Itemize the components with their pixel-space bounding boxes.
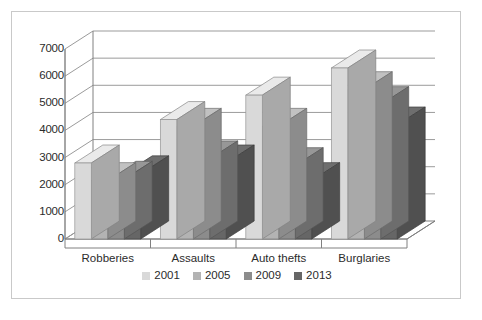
- x-tick-label-robberies: Robberies: [65, 253, 151, 265]
- x-tick-label-burglaries: Burglaries: [322, 253, 408, 265]
- legend-swatch-icon: [193, 272, 201, 280]
- legend-item-2013[interactable]: 2013: [294, 270, 332, 282]
- chart-frame: 01000200030004000500060007000 RobberiesA…: [11, 11, 461, 299]
- legend-swatch-icon: [244, 272, 252, 280]
- legend-label: 2009: [256, 270, 282, 282]
- legend-item-2001[interactable]: 2001: [142, 270, 180, 282]
- x-tick-label-assaults: Assaults: [151, 253, 237, 265]
- legend-swatch-icon: [142, 272, 150, 280]
- legend-label: 2001: [154, 270, 180, 282]
- chart-legend: 2001200520092013: [12, 270, 462, 282]
- x-axis: RobberiesAssaultsAuto theftsBurglaries: [12, 12, 462, 300]
- legend-swatch-icon: [294, 272, 302, 280]
- x-tick-label-auto-thefts: Auto thefts: [236, 253, 322, 265]
- legend-item-2009[interactable]: 2009: [244, 270, 282, 282]
- legend-item-2005[interactable]: 2005: [193, 270, 231, 282]
- legend-label: 2005: [205, 270, 231, 282]
- legend-label: 2013: [306, 270, 332, 282]
